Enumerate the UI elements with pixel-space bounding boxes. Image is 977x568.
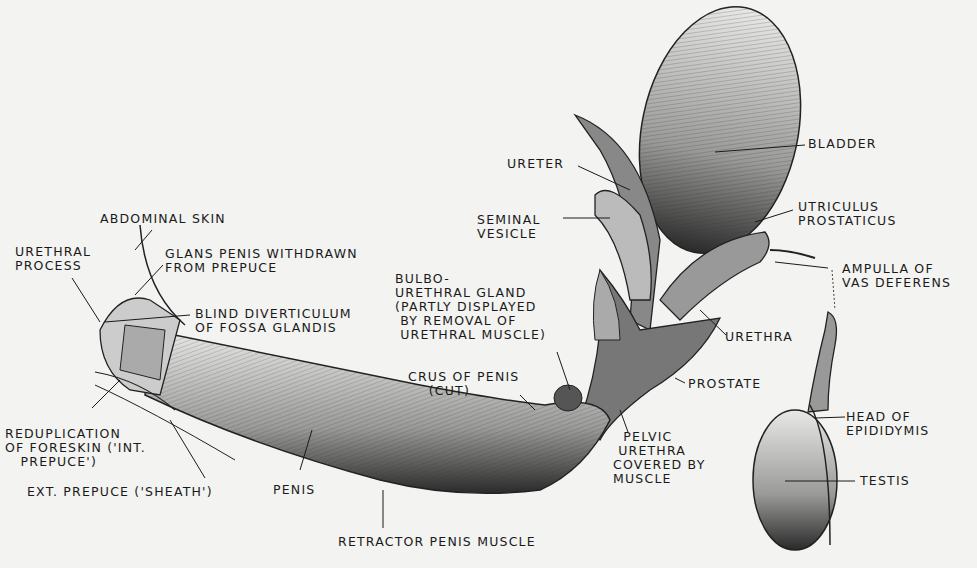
label-pelvic-urethra: PELVIC URETHRA COVERED BY MUSCLE: [613, 430, 706, 486]
label-bladder: BLADDER: [808, 137, 877, 151]
label-testis: TESTIS: [860, 474, 910, 488]
label-urethral-process: URETHRAL PROCESS: [15, 245, 91, 273]
label-seminal-vesicle: SEMINAL VESICLE: [477, 213, 541, 241]
label-ampulla-vas-deferens: AMPULLA OF VAS DEFERENS: [842, 262, 951, 290]
label-head-of-epididymis: HEAD OF EPIDIDYMIS: [846, 410, 929, 438]
label-prostate: PROSTATE: [688, 377, 761, 391]
label-penis: PENIS: [273, 483, 315, 497]
label-urethra: URETHRA: [725, 330, 793, 344]
label-reduplication-foreskin: REDUPLICATION OF FORESKIN ('INT. PREPUCE…: [5, 427, 146, 469]
label-abdominal-skin: ABDOMINAL SKIN: [100, 212, 226, 226]
label-bulbourethral-gland: BULBO- URETHRAL GLAND (PARTLY DISPLAYED …: [395, 272, 546, 342]
label-ext-prepuce: EXT. PREPUCE ('SHEATH'): [27, 485, 213, 499]
label-glans-penis: GLANS PENIS WITHDRAWN FROM PREPUCE: [165, 247, 358, 275]
label-retractor-penis-muscle: RETRACTOR PENIS MUSCLE: [338, 535, 536, 549]
label-utriculus-prostaticus: UTRICULUS PROSTATICUS: [798, 200, 897, 228]
label-crus-of-penis: CRUS OF PENIS (CUT): [408, 370, 519, 398]
label-ureter: URETER: [507, 157, 564, 171]
label-blind-diverticulum: BLIND DIVERTICULUM OF FOSSA GLANDIS: [195, 307, 352, 335]
